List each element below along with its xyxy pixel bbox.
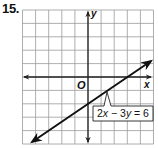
x-axis-label: x bbox=[143, 79, 150, 90]
graph-line bbox=[32, 61, 151, 142]
coordinate-graph: y x O 2x − 3y = 6 bbox=[0, 0, 158, 148]
equation-callout: 2x − 3y = 6 bbox=[93, 92, 153, 121]
y-axis-label: y bbox=[90, 8, 97, 19]
equation-label: 2x − 3y = 6 bbox=[97, 107, 149, 119]
origin-label: O bbox=[77, 79, 86, 91]
